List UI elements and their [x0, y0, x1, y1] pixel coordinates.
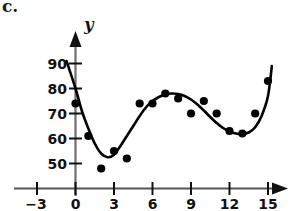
- x-tick-label-0: −3: [25, 196, 46, 211]
- data-point: [225, 127, 233, 135]
- x-tick-label-5: 12: [220, 196, 239, 211]
- scatter-points-group: [71, 77, 272, 173]
- y-tick-label-3: 80: [48, 81, 68, 97]
- x-tick-label-1: 0: [71, 196, 81, 211]
- data-point: [213, 109, 221, 117]
- x-tick-label-3: 6: [148, 196, 158, 211]
- data-point: [200, 97, 208, 105]
- y-tick-label-1: 60: [48, 131, 68, 147]
- data-point: [161, 89, 169, 97]
- x-tick-label-6: 15: [258, 196, 277, 211]
- figure-container: c.: [0, 0, 295, 211]
- fitted-curve: [67, 61, 272, 157]
- data-point: [84, 132, 92, 140]
- y-tick-label-2: 70: [48, 106, 68, 122]
- data-point: [148, 99, 156, 107]
- data-point: [123, 154, 131, 162]
- data-point: [264, 77, 272, 85]
- data-point: [174, 94, 182, 102]
- y-axis-tick-labels: 90 80 70 60 50: [48, 56, 68, 172]
- data-point: [97, 164, 105, 172]
- x-axis-tick-labels: −3 0 3 6 9 12 15: [25, 196, 277, 211]
- data-point: [251, 109, 259, 117]
- x-tick-label-2: 3: [109, 196, 119, 211]
- x-axis: [14, 183, 288, 195]
- data-point: [136, 99, 144, 107]
- y-tick-label-0: 50: [48, 156, 68, 172]
- x-tick-label-4: 9: [186, 196, 196, 211]
- y-axis-arrow-icon: [70, 31, 82, 47]
- part-label: c.: [2, 0, 18, 16]
- y-tick-label-4: 90: [48, 56, 68, 72]
- data-point: [238, 129, 246, 137]
- scatter-plot-svg: −3 0 3 6 9 12 15 90 80 70 60 50 y: [0, 0, 295, 211]
- data-point: [187, 109, 195, 117]
- y-axis-label: y: [83, 15, 95, 34]
- data-point: [71, 99, 79, 107]
- x-axis-arrow-icon: [272, 183, 288, 195]
- data-point: [110, 147, 118, 155]
